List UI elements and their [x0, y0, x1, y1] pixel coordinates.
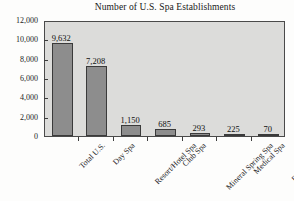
- bar-value-label: 7,208: [86, 56, 105, 66]
- y-tick-label: 8,000: [20, 56, 38, 64]
- y-tick-mark: [44, 98, 48, 99]
- chart-title: Number of U.S. Spa Establishments: [44, 2, 286, 12]
- bar: [155, 129, 176, 136]
- bar-value-label: 70: [264, 124, 273, 134]
- y-tick-mark: [44, 79, 48, 80]
- y-tick-label: 10,000: [16, 36, 38, 44]
- y-axis: 02,0004,0006,0008,00010,00012,000: [0, 21, 41, 137]
- y-tick-mark: [44, 40, 48, 41]
- bar: [258, 134, 279, 136]
- y-tick-label: 6,000: [20, 75, 38, 83]
- bar-chart: Number of U.S. Spa Establishments 02,000…: [0, 0, 294, 201]
- x-tick-mark: [113, 137, 114, 141]
- y-tick-label: 0: [34, 133, 38, 141]
- y-tick-mark: [44, 118, 48, 119]
- y-tick-label: 4,000: [20, 94, 38, 102]
- bar-value-label: 685: [158, 119, 171, 129]
- x-tick-mark: [78, 137, 79, 141]
- x-tick-mark: [182, 137, 183, 141]
- bar-value-label: 225: [227, 124, 240, 134]
- bar: [190, 133, 211, 136]
- x-tick-mark: [147, 137, 148, 141]
- bar: [224, 134, 245, 136]
- x-category-label: Destination Spa: [290, 141, 294, 183]
- bar-value-label: 1,150: [121, 115, 140, 125]
- y-tick-mark: [44, 60, 48, 61]
- bar: [121, 125, 142, 136]
- x-tick-mark: [251, 137, 252, 141]
- bar: [86, 66, 107, 136]
- bar-value-label: 9,632: [52, 33, 71, 43]
- bar-value-label: 293: [193, 123, 206, 133]
- x-tick-mark: [216, 137, 217, 141]
- x-category-label: Total U.S.: [78, 141, 107, 170]
- x-category-label: Day Spa: [111, 141, 137, 167]
- y-tick-label: 12,000: [16, 17, 38, 25]
- y-tick-label: 2,000: [20, 114, 38, 122]
- bar: [52, 43, 73, 136]
